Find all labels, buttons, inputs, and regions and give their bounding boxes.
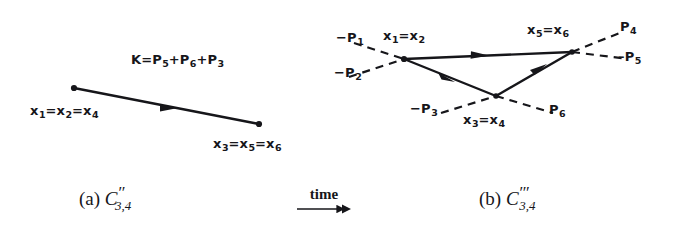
p5-sub: 5: [635, 55, 642, 66]
leg-label-minus-p1: −P1: [336, 31, 364, 44]
b-left-x2-sub: 2: [418, 34, 425, 45]
leg-label-minus-p3: −P3: [410, 102, 438, 115]
panel-b-strokes: [349, 32, 628, 113]
b-right-x6: x: [554, 22, 563, 37]
left-label-eq-1: =: [45, 103, 56, 118]
leg-p6-line: [496, 96, 553, 113]
b-bottom-eq: =: [478, 112, 489, 127]
b-right-x5: x: [527, 22, 536, 37]
momentum-sum-equals: =: [141, 52, 152, 67]
loop-line-left-to-bottom: [404, 59, 496, 96]
leg-minus-p3-line: [441, 96, 496, 113]
panel-b-left-vertex-dot: [401, 56, 407, 62]
panel-a-right-vertex-dot: [256, 121, 262, 127]
panel-a-momentum-sum-label: K=P5+P6+P3: [131, 53, 224, 66]
left-label-eq-2: =: [72, 103, 83, 118]
figure-root: K=P5+P6+P3 x1=x2=x4 x3=x5=x6 −P1 −P2 −P3…: [0, 0, 673, 232]
p5-symbol: P: [625, 49, 635, 64]
b-left-x1: x: [383, 28, 392, 43]
left-label-x4: x: [83, 103, 92, 118]
loop-arrowhead-top: [471, 51, 489, 58]
panel-b-right-vertex-label: x5=x6: [527, 23, 569, 36]
leg-p4-line: [572, 32, 622, 52]
left-label-x1-sub: 1: [39, 109, 46, 120]
leg-label-minus-p2: −P2: [334, 66, 362, 79]
b-bottom-x3: x: [463, 112, 472, 127]
panel-b-caption-symbol: C: [506, 188, 519, 209]
momentum-sum-term-1: P: [152, 52, 162, 67]
left-label-x4-sub: 4: [92, 109, 99, 120]
panel-b-left-vertex-label: x1=x2: [383, 29, 425, 42]
p4-symbol: P: [620, 19, 630, 34]
b-right-x5-sub: 5: [536, 28, 543, 39]
minus-p2-sub: 2: [355, 71, 362, 82]
b-right-eq: =: [542, 22, 553, 37]
momentum-sum-term-3-sub: 3: [218, 58, 225, 69]
leg-label-p4: P4: [620, 20, 637, 33]
panel-b-caption: (b) C′′′3,4: [479, 189, 545, 208]
left-label-x1: x: [30, 103, 39, 118]
loop-arrowhead-right: [530, 64, 547, 75]
minus-p1-sub: 1: [357, 36, 364, 47]
momentum-sum-lhs: K: [131, 52, 141, 67]
right-label-x6: x: [266, 136, 275, 151]
panel-b-right-vertex-dot: [569, 49, 575, 55]
p4-sub: 4: [630, 25, 637, 36]
b-bottom-x4: x: [490, 112, 499, 127]
panel-a-caption-prefix: (a): [79, 188, 100, 209]
right-label-eq-2: =: [255, 136, 266, 151]
panel-b-bottom-vertex-dot: [493, 93, 499, 99]
panel-a-strokes: [71, 85, 262, 127]
panel-a-left-vertex-label: x1=x2=x4: [30, 104, 98, 117]
p5-dash: –: [618, 49, 625, 64]
momentum-sum-plus-2: +: [196, 52, 207, 67]
minus-p1-symbol: −P: [336, 30, 357, 45]
momentum-sum-term-3: P: [207, 52, 217, 67]
panel-b-bottom-vertex-label: x3=x4: [463, 113, 505, 126]
panel-a-left-vertex-dot: [71, 85, 77, 91]
momentum-sum-term-2-sub: 6: [190, 58, 197, 69]
left-label-x2-sub: 2: [65, 109, 72, 120]
minus-p3-symbol: −P: [410, 101, 431, 116]
momentum-sum-term-1-sub: 5: [162, 58, 169, 69]
minus-p2-symbol: −P: [334, 65, 355, 80]
b-bottom-x3-sub: 3: [472, 118, 479, 129]
b-right-x6-sub: 6: [562, 28, 569, 39]
b-left-x2: x: [410, 28, 419, 43]
panel-a-caption-subscript: 3,4: [115, 198, 131, 213]
panel-a-right-vertex-label: x3=x5=x6: [213, 137, 281, 150]
panel-b-caption-prefix: (b): [479, 188, 501, 209]
panel-b-caption-subscript: 3,4: [519, 198, 535, 213]
time-direction-arrow-icon: [296, 203, 352, 215]
panel-a-caption: (a) C′′3,4: [79, 189, 140, 208]
right-label-x6-sub: 6: [275, 142, 282, 153]
right-label-x5-sub: 5: [248, 142, 255, 153]
p6-symbol: P: [549, 102, 559, 117]
minus-p3-sub: 3: [431, 107, 438, 118]
leg-label-p5: –P5: [618, 50, 641, 63]
right-label-eq-1: =: [228, 136, 239, 151]
right-label-x3-sub: 3: [222, 142, 229, 153]
momentum-sum-plus-1: +: [169, 52, 180, 67]
left-label-x2: x: [57, 103, 66, 118]
leg-label-p6: P6: [549, 103, 566, 116]
b-left-eq: =: [398, 28, 409, 43]
b-left-x1-sub: 1: [392, 34, 399, 45]
momentum-sum-term-2: P: [180, 52, 190, 67]
right-label-x3: x: [213, 136, 222, 151]
right-label-x5: x: [240, 136, 249, 151]
b-bottom-x4-sub: 4: [498, 118, 505, 129]
time-axis-indicator: time: [296, 187, 352, 215]
time-axis-label: time: [296, 187, 352, 202]
p6-sub: 6: [559, 108, 566, 119]
